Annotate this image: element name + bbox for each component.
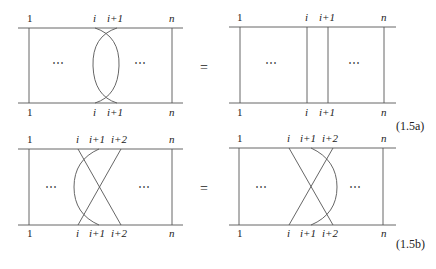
diagram-1-5a-left: 1 i i+1 n 1 i i+1 n ⋯ ⋯ [18, 12, 183, 118]
bottom-label-i-plus-1: i+1 [319, 106, 335, 118]
bottom-label-i: i [305, 106, 308, 118]
top-label-i-plus-1: i+1 [107, 12, 123, 24]
top-label-n: n [381, 11, 387, 23]
bottom-label-i: i [93, 106, 96, 118]
bottom-label-n: n [169, 227, 175, 239]
ellipsis-left: ⋯ [45, 180, 57, 194]
ellipsis-left: ⋯ [265, 56, 277, 70]
ellipsis-right: ⋯ [138, 180, 150, 194]
strand-i [95, 28, 119, 103]
diagram-1-5b-right: 1 i i+1 i+2 n 1 i i+1 i+2 n ⋯ ⋯ [229, 132, 396, 239]
ellipsis-right: ⋯ [349, 180, 361, 194]
equation-tag-1-5b: (1.5b) [396, 237, 425, 251]
top-label-1: 1 [237, 11, 243, 23]
bottom-label-i-plus-2: i+2 [111, 227, 127, 239]
top-label-i-plus-2: i+2 [111, 133, 127, 145]
top-label-1: 1 [237, 132, 243, 144]
ellipsis-left: ⋯ [52, 56, 64, 70]
equation-1-5a: 1 i i+1 n 1 i i+1 n ⋯ ⋯ = 1 i i+1 n 1 i … [18, 11, 424, 133]
top-label-i: i [305, 11, 308, 23]
bottom-label-i: i [76, 227, 79, 239]
diagram-1-5b-left: 1 i i+1 i+2 n 1 i i+1 i+2 n ⋯ ⋯ [18, 133, 183, 239]
top-label-n: n [169, 133, 175, 145]
top-label-i: i [93, 12, 96, 24]
strand-i-plus-1 [93, 28, 117, 103]
strand-i-plus-1 [74, 149, 99, 225]
equation-tag-1-5a: (1.5a) [396, 119, 424, 133]
top-label-1: 1 [27, 133, 33, 145]
top-label-i: i [76, 133, 79, 145]
bottom-label-n: n [381, 227, 387, 239]
top-label-i-plus-1: i+1 [89, 133, 105, 145]
bottom-label-i-plus-1: i+1 [300, 227, 316, 239]
top-label-1: 1 [27, 12, 33, 24]
bottom-label-i-plus-1: i+1 [107, 106, 123, 118]
bottom-label-1: 1 [237, 106, 243, 118]
bottom-label-i-plus-2: i+2 [322, 227, 338, 239]
bottom-label-1: 1 [27, 106, 33, 118]
diagram-1-5a-right: 1 i i+1 n 1 i i+1 n ⋯ ⋯ [229, 11, 396, 118]
ellipsis-right: ⋯ [348, 56, 360, 70]
bottom-label-i-plus-1: i+1 [89, 227, 105, 239]
top-label-i-plus-1: i+1 [300, 132, 316, 144]
top-label-i-plus-1: i+1 [319, 11, 335, 23]
ellipsis-right: ⋯ [134, 56, 146, 70]
bottom-label-1: 1 [237, 227, 243, 239]
bottom-label-n: n [381, 106, 387, 118]
equation-1-5b: 1 i i+1 i+2 n 1 i i+1 i+2 n ⋯ ⋯ = 1 i i+… [18, 132, 425, 251]
bottom-label-1: 1 [27, 227, 33, 239]
top-label-i: i [287, 132, 290, 144]
equals-sign: = [200, 60, 208, 75]
top-label-n: n [169, 12, 175, 24]
ellipsis-left: ⋯ [255, 180, 267, 194]
equals-sign: = [200, 181, 208, 196]
bottom-label-i: i [287, 227, 290, 239]
top-label-n: n [381, 132, 387, 144]
braid-relations-figure: 1 i i+1 n 1 i i+1 n ⋯ ⋯ = 1 i i+1 n 1 i … [0, 0, 436, 269]
top-label-i-plus-2: i+2 [322, 132, 338, 144]
bottom-label-n: n [169, 106, 175, 118]
strand-i-plus-1 [311, 148, 337, 225]
